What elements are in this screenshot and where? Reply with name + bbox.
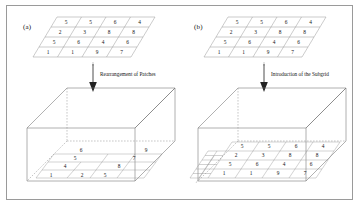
cell-value: 8: [289, 152, 292, 158]
cell-value: 1: [223, 170, 226, 176]
cell-value: 1: [250, 170, 253, 176]
patch-value: 5: [104, 172, 107, 178]
panel-a-base-patches: [36, 154, 162, 178]
cell-value: 6: [114, 19, 117, 25]
cell-value: 6: [297, 39, 300, 45]
cell-value: 5: [53, 39, 56, 45]
cell-value: 9: [96, 49, 99, 55]
cell-value: 8: [108, 29, 111, 35]
cell-value: 5: [229, 161, 232, 167]
cell-value: 2: [230, 29, 233, 35]
cell-value: 8: [303, 29, 306, 35]
cell-value: 4: [283, 161, 286, 167]
cell-value: 4: [322, 143, 325, 149]
cell-value: 6: [256, 161, 259, 167]
cell-value: 9: [267, 49, 270, 55]
cell-value: 7: [120, 49, 123, 55]
cell-value: 7: [291, 49, 294, 55]
panel-a-arrow-label: Rearrangement of Patches: [100, 71, 156, 77]
panel-a-top-grid: [33, 17, 155, 57]
patch-value: 8: [118, 163, 121, 169]
cell-value: 5: [224, 39, 227, 45]
cell-value: 6: [126, 39, 129, 45]
patch-value: 4: [64, 163, 67, 169]
cell-value: 5: [241, 143, 244, 149]
panel-a-box: [27, 88, 175, 181]
cell-value: 8: [316, 152, 319, 158]
cell-value: 2: [235, 152, 238, 158]
cell-value: 6: [285, 19, 288, 25]
patch-value: 9: [145, 147, 148, 153]
cell-value: 4: [102, 39, 105, 45]
cell-value: 3: [83, 29, 86, 35]
cell-value: 3: [254, 29, 257, 35]
panel-b-graphics: 5 5 6 4 2 3 8 8 5 6 4 6 1 1 9 7 Introduc…: [180, 6, 353, 199]
panel-b-base-grid: [208, 142, 340, 178]
patch-value: 6: [80, 147, 83, 153]
cell-value: 8: [279, 29, 282, 35]
cell-value: 5: [89, 19, 92, 25]
cell-value: 1: [47, 49, 50, 55]
cell-value: 4: [273, 39, 276, 45]
patch-value: 7: [133, 155, 136, 161]
cell-value: 8: [132, 29, 135, 35]
cell-value: 3: [262, 152, 265, 158]
cell-value: 5: [260, 19, 263, 25]
patch-value: 2: [81, 172, 84, 178]
cell-value: 5: [268, 143, 271, 149]
cell-value: 9: [277, 170, 280, 176]
cell-value: 6: [310, 161, 313, 167]
cell-value: 6: [248, 39, 251, 45]
cell-value: 6: [77, 39, 80, 45]
cell-value: 5: [65, 19, 68, 25]
patch-value: 1: [50, 172, 53, 178]
cell-value: 7: [304, 170, 307, 176]
panel-b-top-grid: [204, 17, 326, 57]
panel-b: (b) 5 5 6 4 2 3 8 8 5 6: [180, 6, 353, 199]
figure-frame: (a) 5 5 6 4 2 3: [6, 5, 353, 200]
cell-value: 2: [59, 29, 62, 35]
panel-b-arrow-label: Introduction of the Subgrid: [271, 71, 329, 77]
panel-a: (a) 5 5 6 4 2 3: [7, 6, 180, 199]
cell-value: 1: [218, 49, 221, 55]
patch-value: 5: [74, 155, 77, 161]
cell-value: 4: [138, 19, 141, 25]
panel-a-graphics: 5 5 6 4 2 3 8 8 5 6 4 6 1 1 9 7: [7, 6, 180, 199]
cell-value: 1: [71, 49, 74, 55]
cell-value: 4: [309, 19, 312, 25]
cell-value: 1: [242, 49, 245, 55]
cell-value: 6: [295, 143, 298, 149]
cell-value: 5: [236, 19, 239, 25]
panel-b-box: [198, 88, 346, 181]
